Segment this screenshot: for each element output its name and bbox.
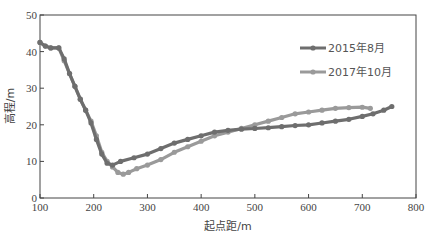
data-point-marker (319, 108, 324, 113)
data-point-marker (279, 115, 284, 120)
legend-item: 2015年8月 (300, 41, 385, 55)
data-point-marker (370, 111, 375, 116)
elevation-profile-chart: 100200300400500600700800 01020304050 起点距… (0, 0, 433, 234)
data-point-marker (368, 106, 373, 111)
data-point-marker (121, 172, 126, 177)
data-point-marker (126, 170, 131, 175)
data-point-marker (88, 120, 93, 125)
data-point-marker (134, 166, 139, 171)
data-point-marker (239, 127, 244, 132)
data-point-marker (293, 111, 298, 116)
data-point-marker (67, 71, 72, 76)
data-point-marker (37, 40, 42, 45)
data-point-marker (78, 97, 83, 102)
data-point-marker (118, 159, 123, 164)
data-point-marker (279, 124, 284, 129)
data-point-marker (306, 109, 311, 114)
x-tick-label: 500 (247, 201, 264, 213)
x-tick-label: 700 (354, 201, 371, 213)
data-point-marker (158, 157, 163, 162)
data-point-marker (266, 119, 271, 124)
legend-marker-icon (310, 69, 315, 74)
y-axis-title: 高程/m (3, 88, 17, 124)
data-point-marker (333, 106, 338, 111)
data-point-marker (360, 105, 365, 110)
y-tick-label: 10 (26, 155, 38, 167)
data-point-marker (346, 105, 351, 110)
data-point-marker (360, 114, 365, 119)
data-point-marker (185, 144, 190, 149)
data-point-marker (62, 56, 67, 61)
data-point-marker (72, 84, 77, 89)
legend-label: 2017年10月 (328, 65, 392, 79)
y-tick-label: 20 (26, 119, 38, 131)
data-point-marker (172, 141, 177, 146)
data-point-marker (115, 170, 120, 175)
y-tick-label: 30 (26, 82, 38, 94)
data-point-marker (110, 162, 115, 167)
data-point-marker (83, 108, 88, 113)
series-line (40, 43, 392, 166)
x-axis-title: 起点距/m (204, 220, 251, 233)
legend-label: 2015年8月 (328, 41, 385, 55)
data-point-marker (199, 139, 204, 144)
data-point-marker (225, 128, 230, 133)
data-point-marker (333, 119, 338, 124)
y-tick-label: 50 (26, 9, 38, 21)
data-point-marker (145, 162, 150, 167)
x-tick-label: 400 (193, 201, 210, 213)
data-point-marker (212, 130, 217, 135)
y-tick-label: 40 (26, 46, 38, 58)
data-point-marker (99, 151, 104, 156)
x-tick-label: 800 (408, 201, 425, 213)
data-point-marker (158, 146, 163, 151)
legend: 2015年8月2017年10月 (300, 41, 392, 79)
data-point-marker (266, 125, 271, 130)
data-point-marker (185, 137, 190, 142)
series-layer (37, 40, 394, 177)
data-point-marker (145, 151, 150, 156)
legend-marker-icon (310, 45, 315, 50)
series-1 (37, 40, 373, 177)
data-point-marker (43, 44, 48, 49)
data-point-marker (381, 108, 386, 113)
x-tick-label: 300 (139, 201, 156, 213)
data-point-marker (56, 45, 61, 50)
data-point-marker (346, 117, 351, 122)
x-tick-label: 600 (300, 201, 317, 213)
legend-item: 2017年10月 (300, 65, 392, 79)
x-axis: 100200300400500600700800 (32, 194, 425, 213)
data-point-marker (199, 133, 204, 138)
data-point-marker (94, 137, 99, 142)
data-point-marker (252, 126, 257, 131)
data-point-marker (319, 120, 324, 125)
x-tick-label: 200 (85, 201, 102, 213)
data-point-marker (105, 161, 110, 166)
y-tick-label: 0 (32, 192, 38, 204)
data-point-marker (131, 155, 136, 160)
data-point-marker (306, 122, 311, 127)
data-point-marker (293, 123, 298, 128)
series-0 (37, 40, 394, 168)
y-axis: 01020304050 (26, 9, 44, 204)
data-point-marker (389, 104, 394, 109)
data-point-marker (172, 150, 177, 155)
data-point-marker (48, 45, 53, 50)
